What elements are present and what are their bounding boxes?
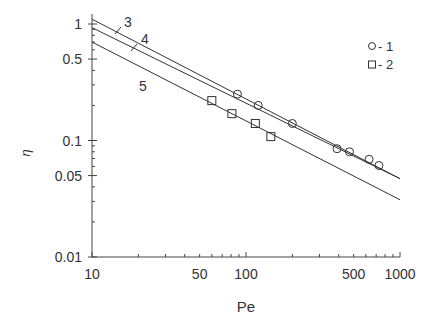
y-tick-label: 0.05 — [55, 168, 82, 184]
y-tick-label: 1 — [74, 16, 82, 32]
square-marker — [251, 119, 259, 127]
legend-label-2: - 2 — [378, 57, 393, 72]
line-labels: 345 — [115, 14, 149, 94]
x-axis-label: Pe — [237, 298, 255, 315]
legend: - 1- 2 — [369, 39, 394, 72]
legend-circle-icon — [369, 43, 376, 50]
y-tick-label: 0.01 — [55, 249, 82, 265]
circle-marker — [346, 148, 354, 156]
circle-marker — [365, 155, 373, 163]
legend-label-1: - 1 — [378, 39, 393, 54]
fit-lines — [92, 19, 400, 200]
x-tick-label: 50 — [192, 266, 208, 282]
fit-line-5 — [92, 42, 400, 200]
x-tick-label: 1000 — [384, 266, 415, 282]
fit-line-3 — [92, 19, 400, 179]
y-tick-label: 0.1 — [63, 133, 83, 149]
y-axis-label: η — [18, 149, 33, 156]
x-tick-label: 10 — [84, 266, 100, 282]
x-tick-label: 500 — [342, 266, 366, 282]
x-tick-label: 100 — [234, 266, 258, 282]
tick-labels: 1050100500100010.50.10.050.01 — [55, 16, 416, 282]
legend-square-icon — [369, 61, 376, 68]
fit-line-4 — [92, 28, 400, 179]
chart: 1050100500100010.50.10.050.01 345 - 1- 2… — [0, 0, 433, 336]
line-label-3: 3 — [124, 14, 132, 30]
line-label-4: 4 — [141, 31, 149, 47]
line-label-5: 5 — [139, 78, 147, 94]
y-tick-label: 0.5 — [63, 51, 83, 67]
axes — [88, 14, 400, 257]
